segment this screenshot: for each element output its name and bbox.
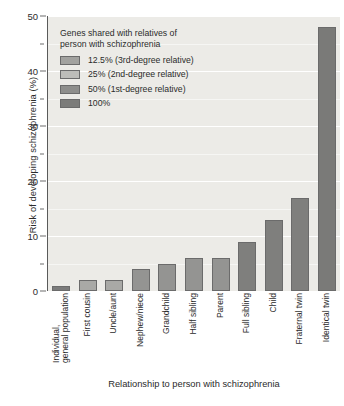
- x-tick-label: Individual,general population: [52, 293, 70, 363]
- y-tick-mark-minor: [40, 43, 44, 44]
- y-tick-label: 50: [27, 11, 38, 22]
- x-tick-cell: Nephew/niece: [132, 293, 150, 371]
- x-tick-cell: Full sibling: [238, 293, 256, 371]
- x-tick-label: Parent: [216, 293, 225, 318]
- bar: [105, 280, 123, 291]
- legend-swatch: [60, 56, 80, 65]
- x-tick-cell: Parent: [212, 293, 230, 371]
- legend-label: 50% (1st-degree relative): [88, 84, 186, 96]
- x-tick-label: Child: [269, 293, 278, 312]
- y-tick-label: 30: [27, 121, 38, 132]
- x-tick-cell: Uncle/aunt: [105, 293, 123, 371]
- x-axis-title: Relationship to person with schizophreni…: [48, 379, 340, 389]
- bar: [132, 269, 150, 291]
- x-tick-cell: First cousin: [79, 293, 97, 371]
- plot-area: Genes shared with relatives ofperson wit…: [48, 16, 340, 291]
- y-tick-label: 0: [33, 286, 38, 297]
- bar: [291, 198, 309, 292]
- x-tick-cell: Fraternal twin: [291, 293, 309, 371]
- y-tick-mark-major: [40, 71, 46, 72]
- legend-entry: 50% (1st-degree relative): [60, 83, 270, 96]
- y-tick-mark-minor: [40, 208, 44, 209]
- y-tick-mark-major: [40, 291, 46, 292]
- y-tick-mark-major: [40, 16, 46, 17]
- bar: [212, 258, 230, 291]
- legend: Genes shared with relatives ofperson wit…: [60, 28, 270, 112]
- legend-entries: 12.5% (3rd-degree relative)25% (2nd-degr…: [60, 54, 270, 111]
- y-tick-mark-major: [40, 236, 46, 237]
- x-tick-label: Nephew/niece: [136, 293, 145, 347]
- y-tick-mark-major: [40, 181, 46, 182]
- legend-swatch: [60, 99, 80, 108]
- y-tick-mark-minor: [40, 98, 44, 99]
- y-tick-mark-major: [40, 126, 46, 127]
- legend-title: Genes shared with relatives ofperson wit…: [60, 28, 270, 51]
- y-tick-label: 10: [27, 231, 38, 242]
- legend-swatch: [60, 70, 80, 79]
- x-tick-label: First cousin: [83, 293, 92, 336]
- bar: [158, 264, 176, 292]
- x-tick-cell: Half sibling: [185, 293, 203, 371]
- legend-label: 25% (2nd-degree relative): [88, 69, 188, 81]
- bar: [185, 258, 203, 291]
- x-tick-label: Grandchild: [163, 293, 172, 334]
- y-axis-tick-labels: 01020304050: [14, 14, 38, 291]
- x-axis-tick-labels: Individual,general populationFirst cousi…: [48, 293, 340, 371]
- legend-entry: 25% (2nd-degree relative): [60, 68, 270, 81]
- y-tick-label: 40: [27, 66, 38, 77]
- bar: [238, 242, 256, 292]
- bar: [52, 286, 70, 292]
- y-tick-mark-minor: [40, 263, 44, 264]
- legend-title-line: person with schizophrenia: [60, 39, 270, 50]
- x-tick-label: Half sibling: [189, 293, 198, 335]
- legend-label: 100%: [88, 98, 110, 110]
- legend-entry: 100%: [60, 97, 270, 110]
- x-tick-cell: Individual,general population: [52, 293, 70, 371]
- legend-label: 12.5% (3rd-degree relative): [88, 55, 194, 67]
- legend-title-line: Genes shared with relatives of: [60, 28, 270, 39]
- x-tick-cell: Grandchild: [158, 293, 176, 371]
- legend-entry: 12.5% (3rd-degree relative): [60, 54, 270, 67]
- bar: [318, 27, 336, 291]
- y-tick-label: 20: [27, 176, 38, 187]
- legend-swatch: [60, 85, 80, 94]
- x-tick-label: Uncle/aunt: [110, 293, 119, 334]
- x-tick-label: Fraternal twin: [296, 293, 305, 345]
- x-tick-cell: Identical twin: [318, 293, 336, 371]
- x-tick-cell: Child: [265, 293, 283, 371]
- y-tick-mark-minor: [40, 153, 44, 154]
- schizophrenia-risk-bar-chart: Risk of developing schizophrenia (%) 010…: [0, 0, 344, 406]
- x-tick-label: Identical twin: [322, 293, 331, 342]
- bar: [265, 220, 283, 292]
- bar: [79, 280, 97, 291]
- x-tick-label: Full sibling: [243, 293, 252, 333]
